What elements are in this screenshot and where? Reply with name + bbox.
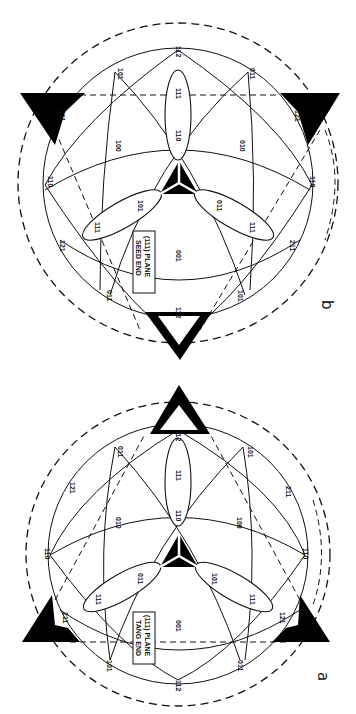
miller-index-label: 112 xyxy=(175,680,182,691)
miller-index-label: 011 xyxy=(137,573,144,584)
miller-index-label: 010 xyxy=(239,140,246,152)
miller-index-label: 101 xyxy=(237,290,244,302)
panel-b: 112 101 011 111 110 211 121 100 010 110 … xyxy=(18,23,340,360)
miller-index-label: 111 xyxy=(175,470,182,481)
miller-index-label: 121 xyxy=(69,482,76,494)
center-tripod-icon xyxy=(160,161,198,194)
center-tripod-icon xyxy=(160,534,198,567)
miller-index-label: 101 xyxy=(117,68,124,80)
plane-label: (111) PLANE xyxy=(143,236,151,278)
miller-index-label: 001 xyxy=(175,620,182,632)
miller-index-label: 211 xyxy=(59,110,66,121)
miller-index-label: 121 xyxy=(294,110,301,122)
miller-index-label: 011 xyxy=(117,446,124,457)
stereographic-figure: 112 101 011 111 110 211 121 100 010 110 … xyxy=(0,0,356,714)
plane-end-label: TANG END xyxy=(135,620,142,656)
miller-index-label: 100 xyxy=(115,140,122,152)
miller-index-label: 101 xyxy=(137,200,144,212)
miller-index-label: 101 xyxy=(211,573,218,585)
miller-index-label: 112 xyxy=(175,430,182,441)
miller-index-label: 112 xyxy=(175,46,182,57)
miller-index-label: 011 xyxy=(237,660,244,671)
miller-index-label: 101 xyxy=(247,446,254,458)
miller-index-label: 110 xyxy=(309,176,316,187)
miller-index-label: 111 xyxy=(249,222,256,233)
miller-index-label: 121 xyxy=(279,612,286,624)
panel-label-b: b xyxy=(318,300,336,310)
miller-index-label: 001 xyxy=(175,250,182,262)
miller-index-label: 111 xyxy=(249,594,256,605)
miller-index-label: 112 xyxy=(175,307,182,318)
miller-index-label: 110 xyxy=(175,510,182,521)
miller-index-label: 010 xyxy=(115,517,122,529)
miller-index-label: 011 xyxy=(216,200,223,211)
miller-index-label: 111 xyxy=(94,222,101,233)
miller-index-label: 110 xyxy=(44,548,51,559)
miller-index-label: 111 xyxy=(95,594,102,605)
miller-index-label: 011 xyxy=(249,68,256,79)
corner-marker-icon xyxy=(20,93,85,145)
miller-index-label: 111 xyxy=(175,88,182,99)
miller-index-label: 110 xyxy=(302,548,309,559)
plane-label: (111) PLANE xyxy=(143,615,151,657)
miller-index-label: 211 xyxy=(285,486,292,497)
miller-index-label: 121 xyxy=(59,240,66,252)
miller-index-label: 211 xyxy=(62,612,69,623)
miller-index-label: 211 xyxy=(289,240,296,251)
miller-index-label: 110 xyxy=(175,130,182,141)
miller-index-label: 011 xyxy=(106,290,113,301)
miller-index-label: 101 xyxy=(106,660,113,672)
miller-index-label: 110 xyxy=(47,176,54,187)
panel-label-a: a xyxy=(314,672,332,681)
miller-index-label: 100 xyxy=(236,517,243,529)
panel-a: 112 011 101 111 121 211 110 010 100 110 … xyxy=(22,385,332,706)
plane-end-label: SEED END xyxy=(135,240,142,276)
